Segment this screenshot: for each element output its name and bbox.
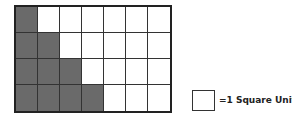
empty-cell [82,7,104,33]
shaded-cell [38,59,60,85]
empty-cell [148,59,170,85]
empty-cell [126,33,148,59]
empty-cell [60,33,82,59]
shaded-cell [82,85,104,111]
empty-cell [126,85,148,111]
empty-cell [104,7,126,33]
legend-unit-square [192,90,215,111]
empty-cell [60,7,82,33]
legend-label: =1 Square Unit [219,95,292,105]
empty-cell [104,85,126,111]
empty-cell [148,7,170,33]
shaded-cell [38,33,60,59]
shaded-cell [16,59,38,85]
empty-cell [148,85,170,111]
empty-cell [126,7,148,33]
shaded-cell [16,33,38,59]
unit-square-grid [14,5,172,113]
empty-cell [82,59,104,85]
shaded-cell [60,85,82,111]
shaded-cell [16,7,38,33]
shaded-cell [16,85,38,111]
shaded-cell [38,85,60,111]
empty-cell [82,33,104,59]
shaded-cell [60,59,82,85]
empty-cell [38,7,60,33]
empty-cell [126,59,148,85]
empty-cell [104,33,126,59]
empty-cell [148,33,170,59]
empty-cell [104,59,126,85]
